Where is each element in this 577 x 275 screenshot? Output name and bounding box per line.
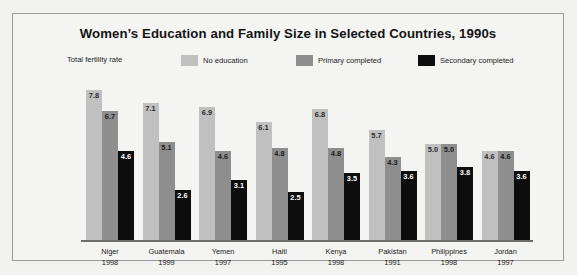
x-axis-labels: Niger1998Guatemala1999Yemen1997Haiti1995…: [67, 247, 547, 273]
bar: 4.6: [118, 151, 134, 240]
bar: 4.8: [328, 148, 344, 240]
bar-value-label: 4.8: [272, 150, 288, 157]
bar-value-label: 5.0: [425, 146, 441, 153]
bar-value-label: 3.1: [231, 182, 247, 189]
bar-value-label: 4.8: [328, 150, 344, 157]
bar: 4.6: [482, 151, 498, 240]
bar-value-label: 4.6: [215, 153, 231, 160]
bar: 3.6: [514, 171, 530, 240]
bar-value-label: 5.1: [159, 144, 175, 151]
bar-group-bars: 5.74.33.6: [369, 82, 417, 240]
bar: 6.8: [312, 109, 328, 240]
bar: 4.6: [215, 151, 231, 240]
bar-value-label: 4.3: [385, 159, 401, 166]
chart-frame: Women’s Education and Family Size in Sel…: [12, 13, 564, 261]
bar-value-label: 2.6: [175, 192, 191, 199]
bar-value-label: 7.1: [143, 105, 159, 112]
bar: 6.9: [199, 107, 215, 240]
bar-value-label: 6.1: [256, 124, 272, 131]
bar: 5.1: [159, 142, 175, 240]
bar: 2.5: [288, 192, 304, 240]
bar: 3.8: [457, 167, 473, 240]
bar-group-bars: 7.15.12.6: [143, 82, 191, 240]
bar-group: 5.05.03.8: [425, 82, 473, 240]
legend-note-total-fertility-rate: Total fertility rate: [67, 55, 122, 64]
bar-value-label: 3.6: [401, 173, 417, 180]
bar-group-bars: 4.64.63.6: [482, 82, 530, 240]
bar-group: 6.84.83.5: [312, 82, 360, 240]
bar: 3.6: [401, 171, 417, 240]
bar-value-label: 7.8: [86, 92, 102, 99]
bar-group: 5.74.33.6: [369, 82, 417, 240]
bar: 7.1: [143, 103, 159, 240]
bar: 3.1: [231, 180, 247, 240]
bar-value-label: 6.8: [312, 111, 328, 118]
legend-label-secondary-completed: Secondary completed: [440, 56, 513, 65]
bar-value-label: 2.5: [288, 194, 304, 201]
bar: 5.0: [441, 144, 457, 240]
bar-value-label: 3.6: [514, 173, 530, 180]
bar-value-label: 4.6: [498, 153, 514, 160]
bar: 5.7: [369, 130, 385, 240]
bar: 7.8: [86, 90, 102, 240]
legend-label-no-education: No education: [203, 56, 248, 65]
bar-group: 6.14.82.5: [256, 82, 304, 240]
x-axis-tick-label: Jordan1997: [472, 247, 540, 268]
legend-entry-primary-completed: Primary completed: [296, 54, 381, 66]
plot-area: 7.86.74.67.15.12.66.94.63.16.14.82.56.84…: [67, 82, 547, 242]
bar: 6.1: [256, 122, 272, 240]
legend-label-primary-completed: Primary completed: [318, 56, 381, 65]
bar-group: 7.15.12.6: [143, 82, 191, 240]
bar-value-label: 6.9: [199, 109, 215, 116]
legend-swatch-secondary-completed: [418, 55, 435, 66]
bar: 6.7: [102, 111, 118, 240]
legend-entry-secondary-completed: Secondary completed: [418, 54, 513, 66]
bar-value-label: 5.7: [369, 132, 385, 139]
bar-group-bars: 7.86.74.6: [86, 82, 134, 240]
bar-value-label: 6.7: [102, 113, 118, 120]
x-axis-line: [81, 240, 533, 242]
bar-value-label: 3.5: [344, 175, 360, 182]
bar-value-label: 3.8: [457, 169, 473, 176]
bar: 4.8: [272, 148, 288, 240]
bar-group: 4.64.63.6: [482, 82, 530, 240]
bar-value-label: 4.6: [482, 153, 498, 160]
bar-group-bars: 6.94.63.1: [199, 82, 247, 240]
legend-swatch-no-education: [181, 55, 198, 66]
bar: 3.5: [344, 173, 360, 240]
legend-entry-no-education: No education: [181, 54, 248, 66]
bar: 4.3: [385, 157, 401, 240]
x-axis-year: 1997: [472, 258, 540, 269]
bar-group: 6.94.63.1: [199, 82, 247, 240]
bar-group-bars: 5.05.03.8: [425, 82, 473, 240]
bar-group: 7.86.74.6: [86, 82, 134, 240]
chart-legend: Total fertility rate No education Primar…: [67, 54, 547, 68]
x-axis-country: Jordan: [472, 247, 540, 258]
bar: 4.6: [498, 151, 514, 240]
bar: 2.6: [175, 190, 191, 240]
bar-value-label: 5.0: [441, 146, 457, 153]
bar: 5.0: [425, 144, 441, 240]
bar-group-bars: 6.14.82.5: [256, 82, 304, 240]
chart-title: Women’s Education and Family Size in Sel…: [13, 26, 563, 41]
legend-swatch-primary-completed: [296, 55, 313, 66]
bar-group-bars: 6.84.83.5: [312, 82, 360, 240]
bar-value-label: 4.6: [118, 153, 134, 160]
